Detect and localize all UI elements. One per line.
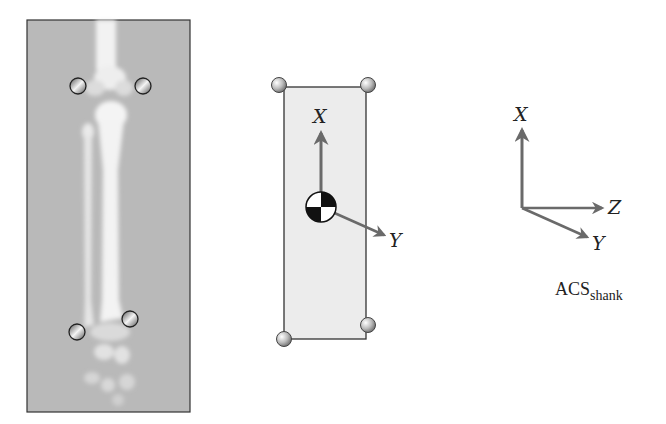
acs-caption-main: ACS <box>555 279 590 299</box>
marker-proximal-medial <box>135 78 151 94</box>
marker-distal-lateral <box>69 324 85 340</box>
segment-panel: X Y <box>272 78 405 347</box>
segment-marker-bottom-left <box>277 332 292 347</box>
acs-y-label: Y <box>592 232 607 254</box>
segment-marker-bottom-right <box>361 318 376 333</box>
marker-distal-medial <box>122 311 138 327</box>
marker-proximal-lateral <box>70 78 86 94</box>
xray-panel <box>27 20 190 412</box>
acs-caption-subscript: shank <box>590 288 623 303</box>
acs-x-label: X <box>512 103 529 125</box>
segment-y-label: Y <box>389 229 404 251</box>
figure-canvas: X Y X Z Y ACSshank <box>0 0 666 424</box>
center-of-mass-icon <box>306 192 336 222</box>
acs-z-label: Z <box>607 196 622 218</box>
acs-y-axis-arrow <box>522 208 587 237</box>
acs-panel: X Z Y ACSshank <box>512 103 623 303</box>
segment-marker-top-right <box>361 78 376 93</box>
segment-x-label: X <box>311 105 328 127</box>
segment-marker-top-left <box>272 78 287 93</box>
acs-caption: ACSshank <box>555 279 623 303</box>
